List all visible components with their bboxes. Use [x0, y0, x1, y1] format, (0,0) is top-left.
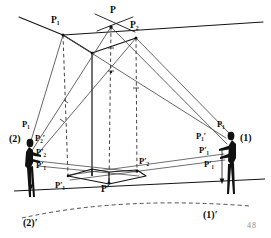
node-apex-p1	[62, 34, 65, 37]
tick-left-lower	[60, 119, 64, 122]
label-left-p2-prime: P′₂	[36, 148, 46, 157]
label-left-p1: P₁	[22, 120, 30, 129]
label-ground-p-prime: P′	[101, 185, 109, 195]
label-ground-p1-prime: P′₁	[55, 181, 65, 190]
label-observer-left-ground: (2)′	[23, 218, 37, 228]
drop-line-p1	[63, 35, 68, 176]
ray-p2-right-observer	[136, 38, 229, 133]
label-observer-left: (2)	[9, 134, 21, 144]
label-right-p1: P₁	[217, 120, 225, 129]
label-apex-p: P	[110, 6, 116, 16]
observer-right-torso	[228, 140, 236, 166]
label-left-p1-prime: P′₁	[36, 161, 46, 170]
ground-sight-rays	[37, 154, 225, 180]
drop-line-p	[109, 27, 111, 183]
node-apex-p	[109, 25, 112, 28]
label-right-p1-prime-lower: P′₁	[204, 160, 214, 169]
ground-plane-outline	[68, 169, 146, 184]
label-observer-right: (1)	[240, 133, 252, 143]
node-ground-p2	[136, 170, 139, 173]
node-ground-p1	[67, 175, 70, 178]
ground-plane	[68, 169, 146, 184]
node-central-top	[91, 52, 94, 55]
observer-right-figure	[219, 132, 236, 194]
label-right-p1-prime-upper: P′₁	[199, 146, 209, 155]
label-ground-p2-prime: P′₂	[139, 157, 149, 166]
page-number: 48	[247, 222, 257, 230]
figure-linework	[0, 0, 271, 238]
ray-tick-marks	[60, 48, 139, 122]
tick-left-upper	[64, 100, 68, 103]
ray-p-right-observer	[111, 27, 227, 144]
horizon-line-right	[63, 22, 263, 35]
ray-p2-left-observer	[36, 38, 136, 156]
central-vertical	[63, 35, 136, 176]
node-apex-p2	[135, 37, 138, 40]
label-left-p2-alt: P₂′	[35, 134, 45, 143]
label-apex-p2: P₂	[130, 21, 139, 31]
observer-right-legs	[227, 163, 235, 194]
observer-left-head	[27, 139, 34, 147]
drop-line-p2	[136, 38, 137, 173]
perspective-figure: P₁ P P₂ P₁ P₂′ P′₂ P′₁ (2) (2)′ P₁ P₁′ P…	[0, 0, 271, 238]
label-observer-right-ground: (1)′	[203, 210, 217, 220]
label-right-p1-alt: P₁′	[196, 132, 206, 141]
label-apex-p1: P₁	[51, 16, 60, 26]
observer-right-head	[228, 132, 235, 140]
ray-p-left-observer	[33, 27, 111, 149]
ray-p1-right-observer	[63, 35, 226, 138]
